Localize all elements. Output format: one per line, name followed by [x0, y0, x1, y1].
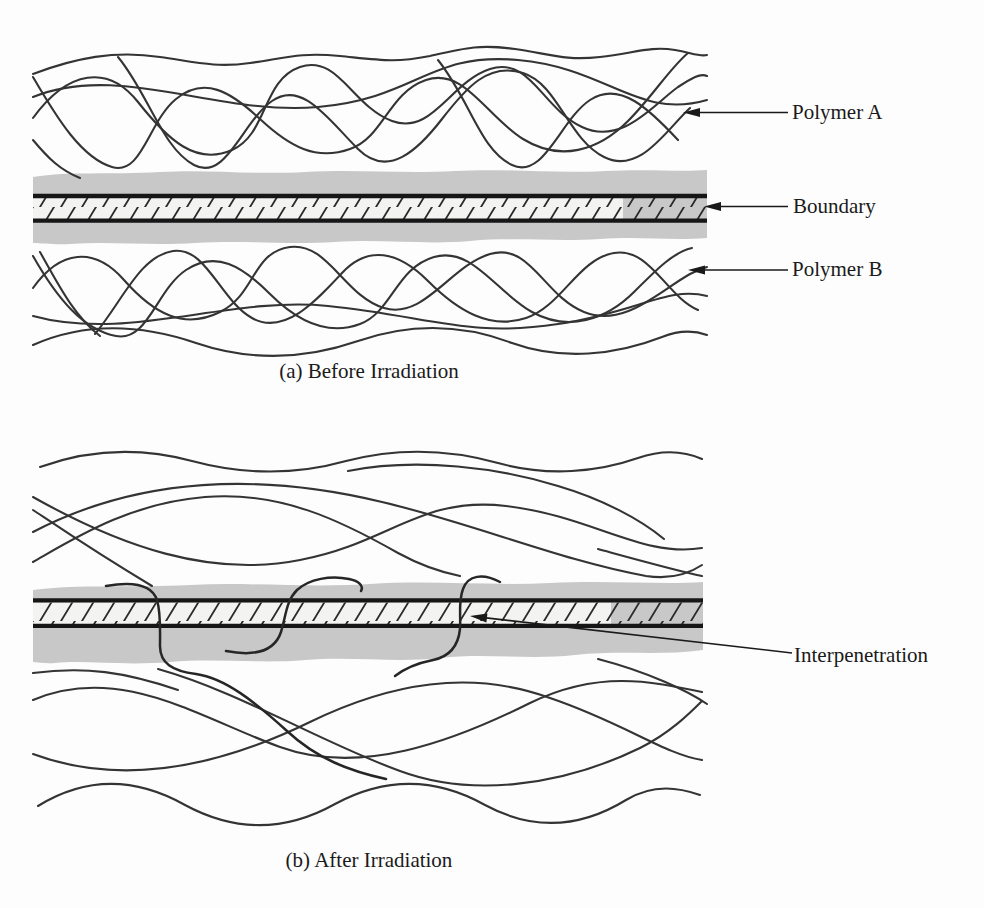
- figure-drawing: [0, 0, 984, 908]
- polymer-irradiation-figure: Polymer A Boundary Polymer B Interpenetr…: [0, 0, 984, 908]
- surface-wave-bottom-b: [38, 784, 700, 825]
- polymer-a-chains: [33, 53, 707, 178]
- surface-wave-top-a: [33, 47, 707, 74]
- polymer-a-label: Polymer A: [792, 100, 882, 125]
- polymer-b-chains: [33, 247, 707, 337]
- boundary-strip-hatch-a: [33, 198, 707, 219]
- interpenetration-label: Interpenetration: [794, 643, 928, 668]
- polymer-a-chains-after: [33, 465, 702, 586]
- panel-a-caption: (a) Before Irradiation: [33, 359, 705, 384]
- surface-wave-top-b: [40, 452, 702, 472]
- boundary-label: Boundary: [793, 194, 876, 219]
- polymer-a-arrow-head: [683, 108, 700, 117]
- panel-b-caption: (b) After Irradiation: [33, 848, 705, 873]
- panel-a-drawing: [33, 47, 707, 356]
- boundary-strip-hatch-b: [33, 603, 703, 625]
- polymer-b-label: Polymer B: [792, 257, 882, 282]
- panel-b-drawing: [33, 452, 707, 825]
- polymer-b-chains-after: [33, 659, 707, 785]
